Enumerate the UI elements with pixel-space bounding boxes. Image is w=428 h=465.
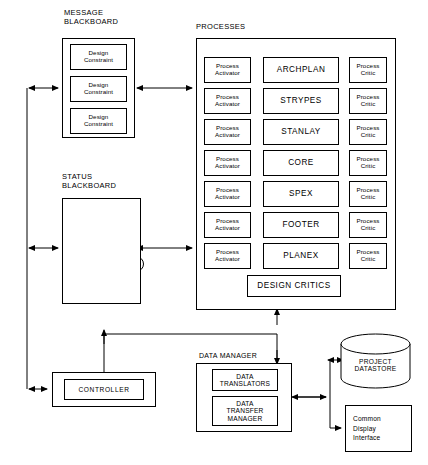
process-critic[interactable]: Process Critic [349, 57, 387, 83]
process-activator[interactable]: Process Activator [204, 212, 251, 238]
process-critic[interactable]: Process Critic [349, 150, 387, 176]
process-critic[interactable]: Process Critic [349, 212, 387, 238]
controller-box[interactable]: CONTROLLER [64, 379, 144, 400]
process-activator[interactable]: Process Activator [204, 181, 251, 207]
process-planex[interactable]: PLANEX [263, 243, 339, 269]
process-critic[interactable]: Process Critic [349, 181, 387, 207]
project-datastore-label: PROJECT DATASTORE [341, 348, 410, 382]
process-activator[interactable]: Process Activator [204, 150, 251, 176]
process-stanlay[interactable]: STANLAY [263, 119, 339, 145]
process-activator[interactable]: Process Activator [204, 88, 251, 114]
design-critics-box[interactable]: DESIGN CRITICS [247, 275, 341, 297]
design-constraint-box[interactable]: Design Constraint [70, 44, 127, 70]
process-activator[interactable]: Process Activator [204, 57, 251, 83]
common-display-interface-box[interactable]: Common Display Interface [345, 405, 412, 452]
process-critic[interactable]: Process Critic [349, 243, 387, 269]
data-translators-box[interactable]: DATA TRANSLATORS [212, 369, 278, 391]
process-strypes[interactable]: STRYPES [263, 88, 339, 114]
process-activator[interactable]: Process Activator [204, 119, 251, 145]
status-blackboard-container [62, 198, 141, 304]
design-constraint-box[interactable]: Design Constraint [70, 108, 127, 134]
process-archplan[interactable]: ARCHPLAN [263, 57, 339, 83]
process-footer[interactable]: FOOTER [263, 212, 339, 238]
status-blackboard-caption: STATUS BLACKBOARD [62, 172, 152, 191]
process-spex[interactable]: SPEX [263, 181, 339, 207]
data-transfer-manager-box[interactable]: DATA TRANSFER MANAGER [212, 396, 278, 426]
process-critic[interactable]: Process Critic [349, 119, 387, 145]
process-critic[interactable]: Process Critic [349, 88, 387, 114]
processes-caption: PROCESSES [196, 22, 316, 31]
data-manager-caption: DATA MANAGER [199, 352, 309, 361]
process-activator[interactable]: Process Activator [204, 243, 251, 269]
design-constraint-box[interactable]: Design Constraint [70, 76, 127, 102]
architecture-diagram: MESSAGE BLACKBOARD Design Constraint Des… [0, 0, 428, 465]
message-blackboard-caption: MESSAGE BLACKBOARD [64, 8, 154, 27]
process-core[interactable]: CORE [263, 150, 339, 176]
